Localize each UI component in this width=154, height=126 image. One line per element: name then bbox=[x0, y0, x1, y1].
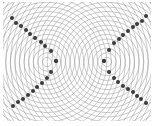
wave-ring bbox=[0, 0, 154, 126]
wave-ring bbox=[0, 0, 154, 126]
right-source-rings bbox=[0, 0, 154, 126]
wave-ring bbox=[0, 0, 154, 126]
interference-pattern-canvas bbox=[0, 0, 154, 126]
node-dot bbox=[121, 84, 125, 88]
wave-rings bbox=[0, 0, 154, 126]
node-dot bbox=[102, 59, 106, 63]
wave-ring bbox=[0, 0, 154, 126]
node-dot bbox=[131, 90, 135, 94]
node-dot bbox=[107, 70, 111, 74]
node-dot bbox=[49, 70, 53, 74]
node-dot bbox=[31, 89, 35, 93]
wave-ring bbox=[0, 0, 154, 126]
node-dot bbox=[14, 21, 18, 25]
node-dot bbox=[26, 93, 30, 97]
node-dot bbox=[112, 76, 116, 80]
node-dot bbox=[43, 44, 47, 48]
node-dot bbox=[33, 36, 37, 40]
left-source-rings bbox=[0, 0, 154, 126]
node-dot bbox=[140, 19, 144, 23]
interference-diagram bbox=[0, 0, 154, 126]
node-dot bbox=[10, 16, 14, 20]
node-dot bbox=[54, 59, 58, 63]
node-dot bbox=[135, 94, 139, 98]
node-dot bbox=[144, 101, 148, 105]
node-dot bbox=[126, 87, 130, 91]
node-dot bbox=[28, 32, 32, 36]
node-dot bbox=[39, 40, 43, 44]
node-dot bbox=[107, 48, 111, 52]
node-dot bbox=[40, 81, 44, 85]
node-dot bbox=[45, 76, 49, 80]
node-dot bbox=[11, 104, 15, 108]
node-dot bbox=[19, 24, 23, 28]
node-dot bbox=[16, 100, 20, 104]
node-dot bbox=[112, 41, 116, 45]
node-dot bbox=[24, 28, 28, 32]
node-dot bbox=[35, 85, 39, 89]
node-dot bbox=[49, 49, 53, 53]
node-dot bbox=[139, 97, 143, 101]
node-dot bbox=[126, 29, 130, 33]
wave-ring bbox=[0, 0, 154, 126]
node-dot bbox=[131, 25, 135, 29]
wave-ring bbox=[0, 2, 107, 122]
wave-ring bbox=[47, 2, 154, 122]
node-dot bbox=[144, 14, 148, 18]
node-dot bbox=[116, 80, 120, 84]
node-dot bbox=[21, 97, 25, 101]
node-dot bbox=[117, 37, 121, 41]
node-dot bbox=[121, 33, 125, 37]
node-dot bbox=[135, 22, 139, 26]
